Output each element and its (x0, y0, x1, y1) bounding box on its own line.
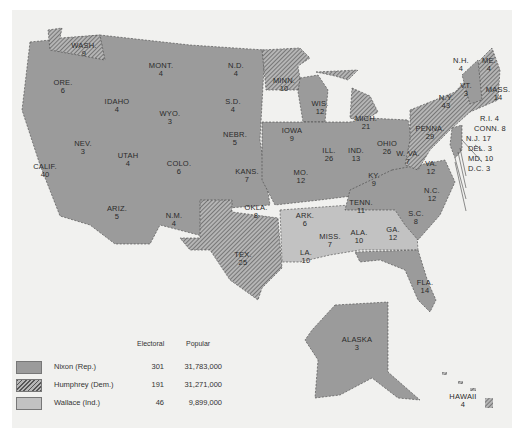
label-nc: N.C.12 (424, 187, 440, 203)
state-mich (316, 70, 358, 80)
label-fla: FLA.14 (417, 279, 434, 295)
label-dc: D.C. 3 (468, 165, 490, 173)
label-colo: COLO.6 (167, 160, 191, 176)
label-va: VA.12 (425, 160, 437, 176)
label-wis: WIS.12 (311, 100, 328, 116)
label-sd: S.D.4 (225, 98, 240, 114)
legend-row-nixon: Nixon (Rep.) 301 31,783,000 (16, 361, 246, 375)
label-vt: VT.3 (460, 82, 471, 98)
label-tex: TEX.25 (234, 251, 251, 267)
label-nj: N.J. 17 (466, 135, 491, 143)
label-nd: N.D.4 (228, 62, 244, 78)
label-ind: IND.13 (348, 147, 364, 163)
legend-electoral: 46 (134, 398, 164, 407)
label-sc: S.C.8 (408, 210, 423, 226)
label-ariz: ARIZ.5 (107, 205, 127, 221)
legend-popular: 9,899,000 (172, 398, 222, 407)
label-iowa: IOWA9 (282, 127, 303, 143)
label-idaho: IDAHO4 (105, 98, 130, 114)
label-utah: UTAH4 (118, 152, 139, 168)
label-nebr: NEBR.5 (223, 131, 247, 147)
humphrey-swatch-icon (16, 379, 42, 392)
label-mich: MICH.21 (355, 115, 377, 131)
label-del: DEL. 3 (468, 145, 492, 153)
label-ill: ILL.26 (322, 147, 335, 163)
legend-popular: 31,271,000 (172, 380, 222, 389)
label-md: MD. 10 (468, 155, 493, 163)
label-miss: MISS.7 (319, 233, 340, 249)
label-ark: ARK.6 (296, 212, 314, 228)
label-tenn: TENN. 11 (349, 199, 373, 215)
label-calif: CALIF.40 (33, 163, 57, 179)
state-nj-del (450, 125, 462, 158)
label-nev: NEV.3 (74, 140, 92, 156)
label-alaska: ALASKA3 (342, 336, 372, 352)
legend-row-wallace: Wallace (Ind.) 46 9,899,000 (16, 397, 246, 411)
label-nm: N.M.4 (166, 212, 183, 228)
label-mass: MASS.14 (486, 86, 510, 102)
label-penna: PENNA.29 (415, 125, 444, 141)
label-mont: MONT.4 (149, 62, 173, 78)
legend-electoral: 301 (134, 362, 164, 371)
label-ala: ALA.10 (350, 229, 367, 245)
label-minn: MINN.10 (273, 77, 295, 93)
legend: Electoral Popular Nixon (Rep.) 301 31,78… (12, 328, 252, 428)
label-wash: WASH.9 (71, 42, 96, 58)
label-nh: N.H.4 (453, 57, 469, 73)
label-ore: ORE.6 (53, 79, 72, 95)
label-ky: KY.9 (368, 172, 380, 188)
label-hawaii: HAWAII4 (449, 393, 476, 409)
label-mo: MO.12 (294, 169, 309, 185)
label-ny: N.Y.43 (439, 94, 453, 110)
legend-header-electoral: Electoral (137, 340, 164, 347)
label-conn: CONN. 8 (474, 125, 506, 133)
wallace-swatch-icon (16, 397, 42, 410)
legend-row-humphrey: Humphrey (Dem.) 191 31,271,000 (16, 379, 246, 393)
legend-popular: 31,783,000 (172, 362, 222, 371)
label-wyo: WYO.3 (160, 110, 181, 126)
legend-name: Humphrey (Dem.) (54, 380, 114, 389)
legend-electoral: 191 (134, 380, 164, 389)
label-wva: W. VA.7 (396, 150, 420, 166)
legend-name: Nixon (Rep.) (54, 362, 96, 371)
label-la: LA.10 (300, 249, 312, 265)
label-ri: R.I. 4 (480, 115, 499, 123)
label-ga: GA.12 (386, 226, 400, 242)
label-me: ME.4 (482, 57, 496, 73)
nixon-swatch-icon (16, 361, 42, 374)
label-kans: KANS.7 (235, 168, 259, 184)
label-ohio: OHIO26 (377, 140, 397, 156)
legend-header-popular: Popular (186, 340, 210, 347)
legend-name: Wallace (Ind.) (54, 398, 100, 407)
label-okla: OKLA.8 (244, 204, 267, 220)
